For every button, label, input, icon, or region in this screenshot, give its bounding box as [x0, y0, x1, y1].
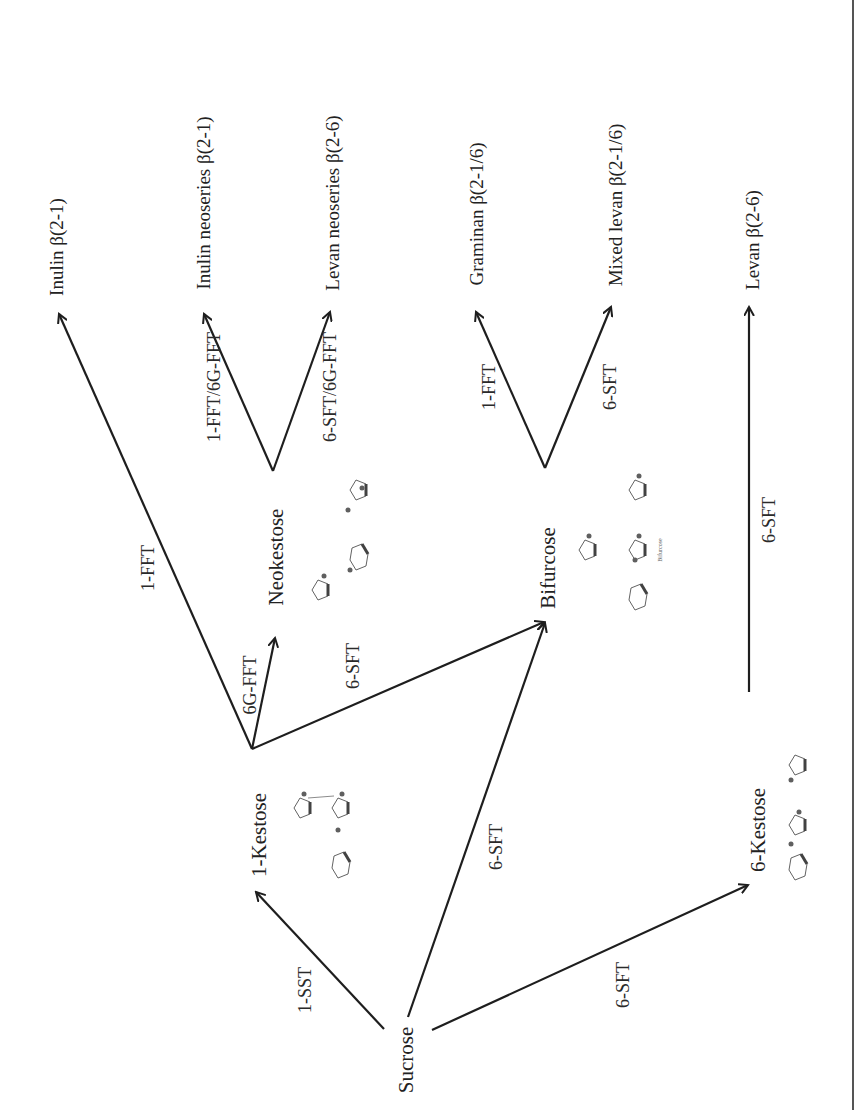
arrow-sucrose-to-1-kestose: [256, 892, 384, 1029]
enzyme-label-1-fft-6g-fft: 1-FFT/6G-FFT: [205, 332, 223, 442]
node-1-kestose: 1-Kestose: [249, 793, 270, 877]
node-sucrose: Sucrose: [396, 1027, 417, 1094]
arrow-sucrose-to-6-kestose: [432, 885, 748, 1030]
enzyme-label-1-fft-graminan: 1-FFT: [480, 364, 498, 410]
arrow-1-kestose-to-bifurcose: [252, 622, 544, 749]
structure-caption-bifurcose: Bifurcose: [657, 538, 663, 561]
enzyme-label-6-sft-sucrose-bifurcose: 6-SFT: [487, 824, 505, 870]
enzyme-label-6g-fft: 6G-FFT: [241, 655, 259, 714]
enzyme-label-6-sft-6g-fft: 6-SFT/6G-FFT: [321, 332, 339, 442]
product-graminan: Graminan β(2-1/6): [467, 142, 486, 285]
node-bifurcose: Bifurcose: [538, 527, 559, 609]
enzyme-label-6-sft-mixed-levan: 6-SFT: [601, 364, 619, 410]
product-levan-neoseries: Levan neoseries β(2-6): [323, 115, 342, 290]
arrow-sucrose-to-bifurcose: [408, 623, 545, 1017]
product-inulin: Inulin β(2-1): [47, 198, 66, 296]
page-border-line: [852, 0, 854, 1110]
enzyme-label-6-sft-levan: 6-SFT: [760, 497, 778, 543]
node-6-kestose: 6-Kestose: [748, 788, 769, 872]
structure-neokestose: [312, 480, 368, 600]
structure-6-kestose: [789, 755, 808, 880]
enzyme-label-1-sst: 1-SST: [296, 967, 314, 1013]
structure-1-kestose: [294, 792, 350, 879]
node-neokestose: Neokestose: [266, 509, 287, 606]
enzyme-label-1-fft-inulin: 1-FFT: [139, 545, 157, 591]
fructan-biosynthesis-diagram: Sucrose 1-Kestose 6-Kestose Neokestose B…: [0, 0, 864, 1110]
product-levan: Levan β(2-6): [743, 190, 762, 290]
enzyme-label-6-sft-sucrose-6-kestose: 6-SFT: [614, 962, 632, 1008]
product-inulin-neoseries: Inulin neoseries β(2-1): [194, 116, 213, 289]
enzyme-label-6-sft-kestose-bifurcose: 6-SFT: [344, 643, 362, 689]
pathway-arrows: [0, 0, 864, 1110]
product-mixed-levan: Mixed levan β(2-1/6): [606, 124, 625, 287]
structure-bifurcose: [579, 474, 647, 611]
